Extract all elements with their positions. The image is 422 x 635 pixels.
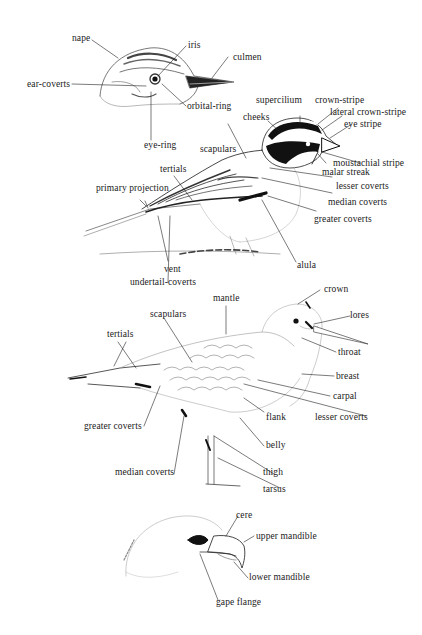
- label-primary-projection: primary projection: [96, 183, 169, 194]
- label-lesser-coverts-wader: lesser coverts: [315, 412, 368, 423]
- label-culmen: culmen: [233, 52, 262, 63]
- label-cheeks: cheeks: [243, 112, 269, 123]
- bird-topography-figure: nape iris culmen ear-coverts orbital-rin…: [0, 0, 422, 635]
- label-scapulars: scapulars: [200, 144, 236, 155]
- label-undertail-coverts: undertail-coverts: [130, 277, 196, 288]
- label-ear-coverts: ear-coverts: [27, 79, 70, 90]
- label-eye-stripe: eye stripe: [344, 119, 382, 130]
- wader-drawing: [68, 290, 368, 488]
- label-nape: nape: [72, 33, 90, 44]
- label-vent: vent: [164, 264, 181, 275]
- label-gape-flange: gape flange: [216, 597, 261, 608]
- label-scapulars-wader: scapulars: [150, 309, 186, 320]
- label-median-coverts-wader: median coverts: [115, 467, 174, 478]
- label-greater-coverts: greater coverts: [314, 214, 372, 225]
- label-belly: belly: [266, 440, 286, 451]
- label-lesser-coverts: lesser coverts: [336, 181, 389, 192]
- label-tertials: tertials: [160, 164, 187, 175]
- raptor-head-drawing: [124, 516, 254, 600]
- label-breast: breast: [336, 371, 359, 382]
- label-supercilium: supercilium: [256, 95, 302, 106]
- label-crown-stripe: crown-stripe: [315, 95, 364, 106]
- label-lateral-crown-stripe: lateral crown-stripe: [330, 107, 406, 118]
- label-tarsus: tarsus: [263, 484, 286, 495]
- label-tertials-wader: tertials: [107, 329, 134, 340]
- label-flank: flank: [266, 412, 286, 423]
- label-malar-streak: malar streak: [322, 167, 370, 178]
- label-orbital-ring: orbital-ring: [187, 101, 231, 112]
- label-thigh: thigh: [263, 467, 283, 478]
- songbird-head-drawing: [72, 40, 234, 140]
- label-carpal: carpal: [333, 391, 357, 402]
- label-mantle: mantle: [213, 293, 239, 304]
- label-cere: cere: [236, 510, 252, 521]
- label-lores: lores: [350, 310, 369, 321]
- label-alula: alula: [297, 260, 316, 271]
- sparrow-drawing: [84, 108, 360, 282]
- label-throat: throat: [338, 347, 361, 358]
- label-iris: iris: [188, 40, 201, 51]
- label-greater-coverts-wader: greater coverts: [84, 421, 142, 432]
- label-lower-mandible: lower mandible: [249, 572, 310, 583]
- label-eye-ring: eye-ring: [144, 140, 176, 151]
- label-upper-mandible: upper mandible: [256, 531, 317, 542]
- label-median-coverts: median coverts: [328, 197, 387, 208]
- label-crown: crown: [324, 284, 348, 295]
